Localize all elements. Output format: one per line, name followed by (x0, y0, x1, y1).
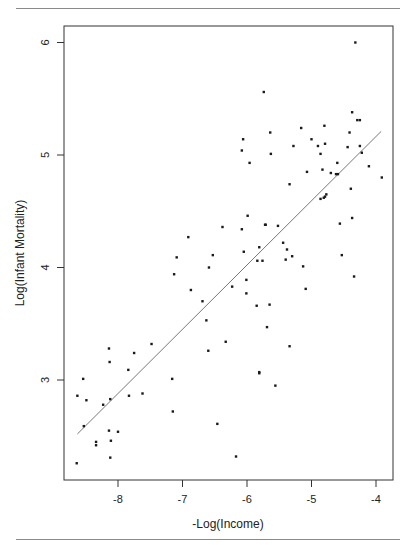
data-point (235, 455, 237, 457)
data-point (243, 251, 245, 253)
x-tick-label: -6 (242, 493, 252, 505)
data-point (268, 303, 270, 305)
data-point (173, 273, 175, 275)
data-point (359, 119, 361, 121)
data-point (241, 149, 243, 151)
data-point (266, 326, 268, 328)
data-point (208, 266, 210, 268)
data-point (141, 392, 143, 394)
y-tick-label: 4 (39, 264, 51, 270)
data-point (95, 441, 97, 443)
data-point (346, 146, 348, 148)
x-axis: -8-7-6-5-4 (113, 480, 381, 505)
data-point (85, 399, 87, 401)
data-point (221, 226, 223, 228)
data-point (246, 215, 248, 217)
data-point (175, 256, 177, 258)
data-point (231, 285, 233, 287)
data-point (285, 258, 287, 260)
data-point (128, 395, 130, 397)
data-point (325, 193, 327, 195)
scatter-plot: 3456 -8-7-6-5-4 -Log(Income) Log(Infant … (0, 0, 412, 545)
data-point (359, 145, 361, 147)
data-points (76, 41, 383, 464)
data-point (108, 347, 110, 349)
data-point (361, 152, 363, 154)
data-point (102, 404, 104, 406)
data-point (319, 198, 321, 200)
data-point (245, 292, 247, 294)
x-tick-label: -8 (113, 493, 123, 505)
data-point (319, 153, 321, 155)
data-point (256, 260, 258, 262)
data-point (353, 275, 355, 277)
data-point (263, 91, 265, 93)
data-point (282, 242, 284, 244)
data-point (274, 384, 276, 386)
figure: 3456 -8-7-6-5-4 -Log(Income) Log(Infant … (0, 0, 412, 545)
data-point (269, 131, 271, 133)
data-point (341, 254, 343, 256)
data-point (337, 173, 339, 175)
data-point (76, 462, 78, 464)
data-point (317, 145, 319, 147)
data-point (351, 111, 353, 113)
data-point (324, 143, 326, 145)
data-point (310, 138, 312, 140)
data-point (321, 168, 323, 170)
data-point (117, 431, 119, 433)
data-point (150, 343, 152, 345)
data-point (110, 440, 112, 442)
data-point (351, 217, 353, 219)
data-point (288, 183, 290, 185)
data-point (330, 172, 332, 174)
data-point (82, 378, 84, 380)
x-axis-label: -Log(Income) (192, 517, 263, 531)
data-point (277, 225, 279, 227)
data-point (306, 171, 308, 173)
data-point (356, 119, 358, 121)
data-point (133, 352, 135, 354)
y-tick-label: 5 (39, 152, 51, 158)
data-point (350, 188, 352, 190)
regression-line (77, 131, 381, 434)
data-point (381, 176, 383, 178)
x-tick-label: -4 (371, 493, 381, 505)
data-point (264, 224, 266, 226)
data-point (304, 288, 306, 290)
data-point (255, 305, 257, 307)
data-point (241, 228, 243, 230)
data-point (216, 423, 218, 425)
data-point (302, 265, 304, 267)
data-point (171, 378, 173, 380)
data-point (95, 444, 97, 446)
data-point (83, 425, 85, 427)
data-point (245, 279, 247, 281)
data-point (205, 319, 207, 321)
data-point (270, 153, 272, 155)
data-point (187, 236, 189, 238)
data-point (258, 372, 260, 374)
data-point (286, 248, 288, 250)
data-point (76, 395, 78, 397)
x-tick-label: -7 (178, 493, 188, 505)
data-point (323, 125, 325, 127)
data-point (323, 197, 325, 199)
data-point (201, 300, 203, 302)
data-point (108, 429, 110, 431)
data-point (109, 456, 111, 458)
data-point (291, 255, 293, 257)
data-point (172, 410, 174, 412)
data-point (354, 41, 356, 43)
x-tick-label: -5 (307, 493, 317, 505)
y-axis-label: Log(Infant Mortality) (13, 200, 27, 307)
data-point (207, 350, 209, 352)
data-point (108, 361, 110, 363)
data-point (258, 246, 260, 248)
y-tick-label: 6 (39, 39, 51, 45)
data-point (127, 369, 129, 371)
data-point (225, 341, 227, 343)
data-point (212, 254, 214, 256)
data-point (109, 398, 111, 400)
data-point (339, 222, 341, 224)
